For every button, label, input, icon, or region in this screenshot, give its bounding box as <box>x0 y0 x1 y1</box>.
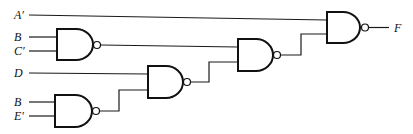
wire-g4-to-g2 <box>100 90 149 111</box>
nand-gate-1 <box>57 29 93 60</box>
inversion-bubble-3 <box>274 52 281 59</box>
wire-g2-to-g3 <box>191 62 239 82</box>
inversion-bubble-1 <box>94 42 101 49</box>
input-label-e-prime: E′ <box>13 109 24 123</box>
nand-gate-4 <box>55 95 92 127</box>
input-label-d: D <box>13 66 23 80</box>
wire-d <box>29 73 148 74</box>
inversion-bubble-2 <box>184 79 191 86</box>
logic-circuit-diagram: A′ B C′ D B E′ F <box>0 0 413 134</box>
input-label-b-1: B <box>14 30 22 44</box>
wire-g3-to-g5 <box>281 34 328 55</box>
inversion-bubble-5 <box>362 24 369 31</box>
input-label-c-prime: C′ <box>14 44 25 58</box>
input-label-a-prime: A′ <box>13 8 24 22</box>
input-label-b-2: B <box>14 95 22 109</box>
wire-g1-to-g3 <box>101 45 239 47</box>
nand-gate-5 <box>327 12 360 43</box>
wire-a-prime <box>29 15 327 20</box>
inversion-bubble-4 <box>93 108 100 115</box>
output-label-f: F <box>393 21 402 35</box>
nand-gate-3 <box>238 39 273 71</box>
nand-gate-2 <box>148 66 183 98</box>
